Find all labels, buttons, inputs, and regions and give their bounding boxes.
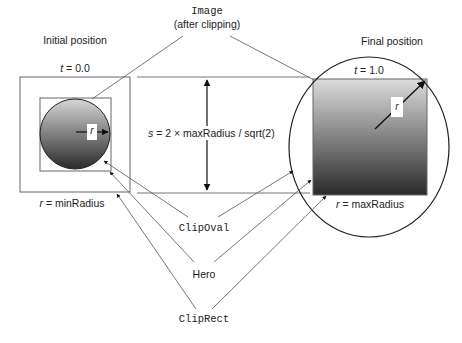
cliprect-label: ClipRect (179, 313, 229, 325)
diagram-canvas (0, 0, 462, 343)
t-final-label: t = 1.0 (354, 64, 384, 76)
hero-label: Hero (193, 268, 216, 280)
radius-tag-right: r (391, 97, 403, 117)
clipoval-label: ClipOval (179, 222, 229, 234)
final-position-label: Final position (361, 35, 423, 47)
image-subtitle: (after clipping) (174, 18, 241, 30)
initial-position-label: Initial position (43, 34, 107, 46)
s-formula-label: s = 2 × maxRadius / sqrt(2) (148, 126, 275, 140)
initial-clipoval-circle (40, 99, 110, 169)
radius-tag-left: r (87, 124, 97, 140)
t-initial-label: t = 0.0 (60, 62, 90, 74)
r-min-label: r = minRadius (39, 197, 104, 209)
image-title: Image (191, 5, 223, 17)
r-max-label: r = maxRadius (336, 198, 404, 210)
